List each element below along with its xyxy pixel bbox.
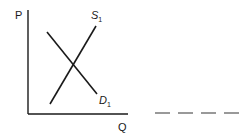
demand-label-subscript: 1	[107, 101, 111, 108]
supply-label-subscript: 1	[98, 16, 102, 23]
demand-label-letter: D	[99, 94, 107, 106]
supply-label: S1	[91, 9, 102, 23]
x-axis-label: Q	[118, 121, 127, 133]
y-axis-label: P	[15, 9, 22, 21]
supply-demand-diagram: P Q S1 D1	[0, 0, 245, 134]
demand-label: D1	[99, 94, 111, 108]
demand-curve	[47, 32, 97, 94]
